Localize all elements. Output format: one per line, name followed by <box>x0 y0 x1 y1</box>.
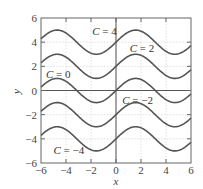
x-tick-label: −4 <box>60 164 72 176</box>
y-tick-label: 2 <box>32 60 38 72</box>
curve-label: C = 2 <box>130 42 155 54</box>
y-tick-label: −6 <box>25 157 37 169</box>
y-tick-label: 4 <box>32 36 38 48</box>
y-axis-label: y <box>10 89 22 95</box>
y-tick-label: 0 <box>32 85 38 97</box>
y-tick-label: −2 <box>25 109 37 121</box>
curve-label: C = 0 <box>46 68 71 80</box>
chart: −6−4−20246 −6−4−20246 C = 4C = 2C = 0C =… <box>0 0 203 189</box>
curve-label: C = −4 <box>54 144 85 156</box>
y-tick-labels: −6−4−20246 <box>25 12 37 169</box>
x-tick-label: 4 <box>163 164 169 176</box>
x-tick-label: 2 <box>138 164 144 176</box>
curve-label: C = 4 <box>92 25 117 37</box>
x-tick-label: −2 <box>85 164 97 176</box>
x-axis-label: x <box>113 175 119 187</box>
x-tick-label: 6 <box>188 164 194 176</box>
curve-label: C = −2 <box>122 94 153 106</box>
y-tick-label: 6 <box>32 12 38 24</box>
y-tick-label: −4 <box>25 133 37 145</box>
